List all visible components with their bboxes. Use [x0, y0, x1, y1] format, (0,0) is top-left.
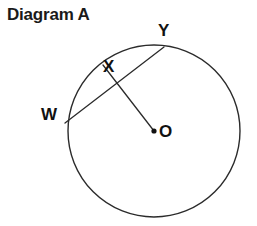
point-label-o: O — [159, 123, 172, 140]
point-label-w: W — [41, 106, 57, 123]
point-label-y: Y — [158, 22, 169, 39]
geometry-figure — [0, 0, 257, 226]
diagram-container: Diagram A W X Y O — [0, 0, 257, 226]
diagram-title: Diagram A — [7, 5, 90, 25]
point-label-x: X — [103, 58, 114, 75]
center-point-dot — [151, 128, 156, 133]
chord-wy-line — [65, 47, 164, 123]
